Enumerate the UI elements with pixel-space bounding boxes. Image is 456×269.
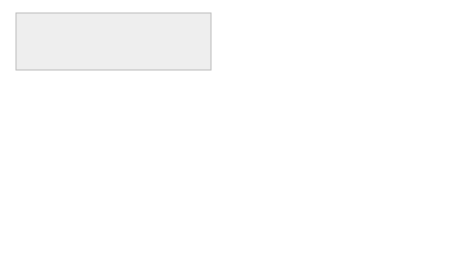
scene-final: [0, 0, 456, 269]
